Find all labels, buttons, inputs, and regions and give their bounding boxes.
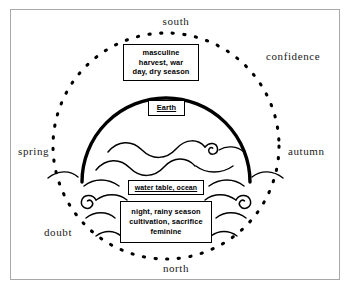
night-box-line-1: night, rainy season [124, 207, 208, 217]
masculine-box: masculine harvest, war day, dry season [123, 44, 199, 81]
masculine-box-line-1: masculine [127, 48, 195, 58]
masculine-box-line-3: day, dry season [127, 67, 195, 77]
earth-box: Earth [148, 100, 185, 116]
label-doubt: doubt [44, 226, 72, 238]
label-autumn: autumn [288, 145, 325, 157]
earth-box-label: Earth [152, 103, 181, 113]
label-confidence: confidence [266, 50, 320, 62]
night-box-line-2: cultivation, sacrifice [124, 217, 208, 227]
masculine-box-line-2: harvest, war [127, 58, 195, 68]
water-table-box-label: water table, ocean [132, 183, 200, 192]
water-table-box: water table, ocean [128, 180, 204, 195]
night-box-line-3: feminine [124, 227, 208, 237]
diagram-canvas: south north spring autumn confidence dou… [0, 0, 352, 290]
label-spring: spring [18, 145, 49, 157]
night-box: night, rainy season cultivation, sacrifi… [120, 201, 212, 243]
label-south: south [0, 15, 352, 27]
label-north: north [0, 262, 352, 274]
